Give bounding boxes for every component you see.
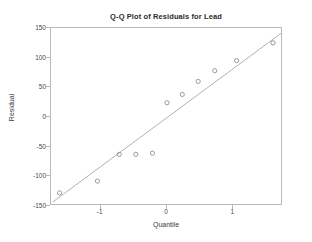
data-point — [95, 179, 99, 183]
y-tick-label: -50 — [6, 142, 46, 149]
plot-canvas — [51, 28, 282, 205]
data-point — [58, 191, 62, 195]
y-tick-label: -100 — [6, 172, 46, 179]
y-axis-tick-labels: 150100500-50-100-150 — [4, 0, 46, 242]
data-point — [165, 101, 169, 105]
data-point — [213, 69, 217, 73]
x-tick-mark — [232, 205, 233, 209]
x-tick-mark — [100, 205, 101, 209]
y-tick-label: 50 — [6, 83, 46, 90]
data-point — [150, 151, 154, 155]
y-tick-label: 150 — [6, 24, 46, 31]
x-tick-label: 1 — [217, 208, 247, 215]
data-point — [271, 41, 275, 45]
reference-line — [53, 33, 281, 202]
x-tick-label: 0 — [151, 208, 181, 215]
plot-area — [50, 27, 282, 205]
y-tick-label: 0 — [6, 113, 46, 120]
x-axis-title: Quantile — [50, 221, 282, 228]
x-tick-mark — [166, 205, 167, 209]
data-point — [134, 152, 138, 156]
y-tick-mark — [46, 205, 50, 206]
x-tick-label: -1 — [85, 208, 115, 215]
chart-title: Q-Q Plot of Residuals for Lead — [50, 12, 282, 21]
data-point — [180, 92, 184, 96]
qq-plot-figure: Q-Q Plot of Residuals for Lead Residual … — [0, 0, 312, 242]
y-tick-label: -150 — [6, 202, 46, 209]
data-point — [196, 79, 200, 83]
data-point — [235, 59, 239, 63]
y-tick-label: 100 — [6, 53, 46, 60]
